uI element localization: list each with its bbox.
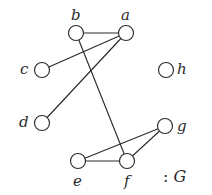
edge-b-f [76,33,127,161]
graph-node-e[interactable] [71,154,86,169]
caption-graph-name: G [173,167,186,186]
graph-figure: abcdefgh : G [0,0,212,195]
graph-caption: : G [163,169,186,185]
node-label-g: g [177,119,187,134]
graph-node-b[interactable] [69,26,84,41]
node-label-c: c [20,62,28,77]
graph-node-h[interactable] [159,63,174,78]
graph-node-a[interactable] [119,26,134,41]
node-label-b: b [71,8,81,23]
node-label-a: a [121,8,130,23]
node-label-e: e [73,174,82,189]
graph-node-c[interactable] [35,63,50,78]
node-label-h: h [177,62,187,77]
graph-node-f[interactable] [120,154,135,169]
edges-layer [42,33,165,161]
edge-a-d [42,33,126,123]
graph-canvas [0,0,212,195]
graph-node-g[interactable] [158,119,173,134]
node-label-d: d [19,115,29,130]
caption-separator: : [163,167,168,186]
node-label-f: f [124,174,130,189]
nodes-layer [35,26,174,169]
edge-a-c [42,33,126,70]
graph-node-d[interactable] [35,116,50,131]
